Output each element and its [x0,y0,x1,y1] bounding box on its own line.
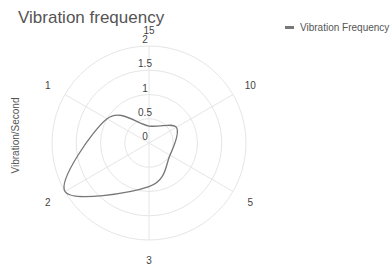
category-label: 1 [45,80,51,91]
category-label: 5 [248,197,254,208]
grid-spoke [65,143,149,192]
radial-tick-label: 0.5 [138,107,152,118]
category-label: 10 [245,80,257,91]
radial-tick-label: 0 [142,131,148,142]
category-label: 3 [146,255,152,266]
radial-tick-label: 1.5 [138,58,152,69]
category-label: 2 [45,197,51,208]
grid-spoke [149,143,233,192]
radar-chart: 00.511.5215105321 [0,0,391,275]
radial-tick-label: 1 [142,83,148,94]
series-line[interactable] [64,115,177,197]
grid-spoke [149,95,233,144]
category-label: 15 [143,25,155,36]
